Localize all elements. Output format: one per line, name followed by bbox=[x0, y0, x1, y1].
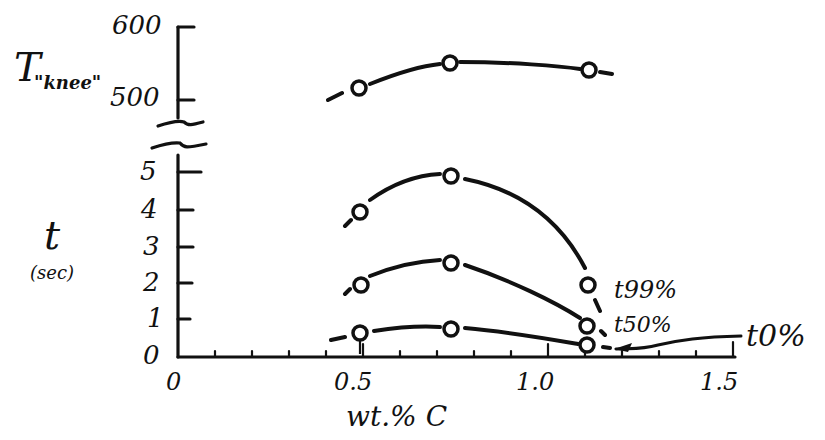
point-t0-0.75 bbox=[444, 322, 458, 336]
ytick-label-1: 1 bbox=[147, 303, 164, 333]
point-t50-0.5 bbox=[354, 278, 368, 292]
lower-ylabel: t bbox=[44, 212, 60, 258]
upper-tick-label-600: 600 bbox=[112, 10, 162, 40]
annotation-t0: t0% bbox=[746, 318, 806, 353]
xtick-label-1.0: 1.0 bbox=[516, 368, 554, 396]
ytick-label-4: 4 bbox=[141, 194, 158, 224]
point-t50-0.75 bbox=[444, 256, 458, 270]
point-tknee-1.12 bbox=[582, 63, 596, 77]
annotation-t50: t50% bbox=[614, 312, 672, 337]
upper-ylabel-knee: "knee" bbox=[34, 72, 101, 93]
ytick-label-2: 2 bbox=[143, 267, 160, 297]
ytick-label-0: 0 bbox=[143, 340, 160, 370]
point-t0-0.5 bbox=[353, 326, 367, 340]
point-t99-1.12 bbox=[581, 278, 595, 292]
point-t50-1.12 bbox=[580, 319, 594, 333]
ytick-label-3: 3 bbox=[143, 231, 160, 261]
xtick-label-0.5: 0.5 bbox=[334, 368, 372, 396]
t0-arrow-line bbox=[616, 336, 741, 349]
curve-t-knee bbox=[328, 62, 612, 100]
point-tknee-0.5 bbox=[352, 81, 366, 95]
point-t0-1.12 bbox=[580, 338, 594, 352]
axis-break-bottom bbox=[152, 143, 206, 148]
point-tknee-0.75 bbox=[443, 56, 457, 70]
annotation-t99: t99% bbox=[614, 276, 677, 304]
point-t99-0.5 bbox=[353, 205, 367, 219]
lower-ylabel-unit: (sec) bbox=[30, 262, 74, 283]
axis-break-top bbox=[158, 121, 203, 126]
x-axis-label: wt.% C bbox=[346, 400, 447, 433]
curve-t0 bbox=[331, 327, 610, 348]
ytick-label-5: 5 bbox=[140, 156, 157, 186]
xtick-label-0: 0 bbox=[166, 368, 181, 396]
xtick-label-1.5: 1.5 bbox=[700, 368, 738, 396]
upper-tick-label-500: 500 bbox=[110, 82, 160, 112]
curve-t99 bbox=[345, 174, 600, 311]
point-t99-0.75 bbox=[444, 169, 458, 183]
curve-t50 bbox=[345, 260, 605, 335]
